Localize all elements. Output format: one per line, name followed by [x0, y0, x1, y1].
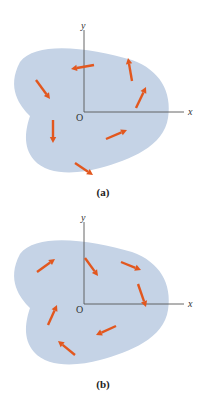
rigid-body-diagram-b: yxO: [0, 200, 206, 404]
panel-a: yxO (a): [0, 0, 206, 200]
y-axis-label: y: [80, 212, 86, 223]
rigid-body-shape: [14, 48, 169, 172]
panel-b: yxO (b): [0, 200, 206, 404]
origin-label: O: [76, 304, 83, 315]
origin-label: O: [76, 112, 83, 123]
x-axis-label: x: [187, 106, 193, 117]
y-axis-label: y: [80, 20, 86, 31]
caption-b: (b): [0, 378, 206, 390]
rigid-body-diagram-a: yxO: [0, 0, 206, 200]
x-axis-label: x: [187, 298, 193, 309]
caption-a: (a): [0, 186, 206, 198]
